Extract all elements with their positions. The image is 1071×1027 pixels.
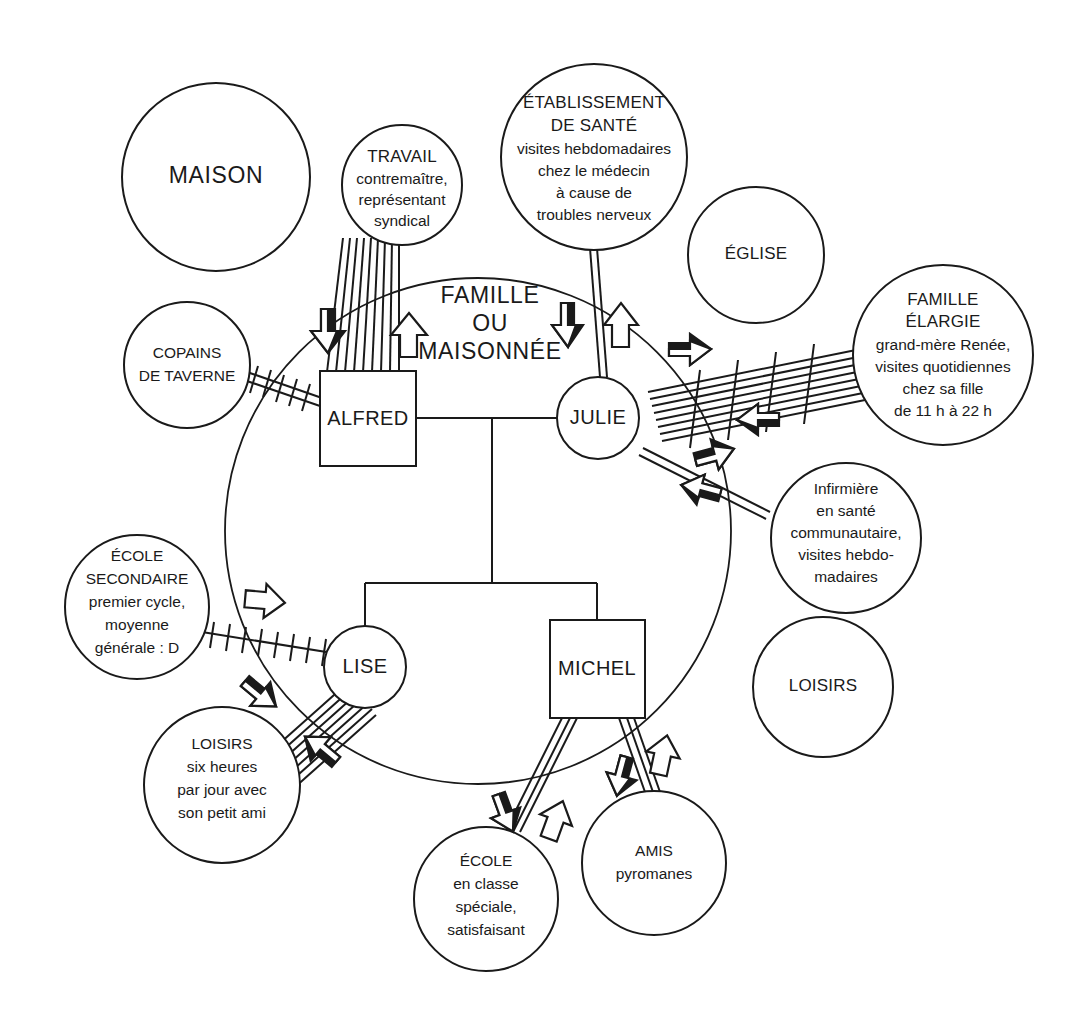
system-amis-pyromanes-circle[interactable] (582, 791, 726, 935)
system-ecole-secondaire[interactable]: ÉCOLE SECONDAIRE premier cycle, moyenne … (65, 535, 209, 679)
arrow-julie-to-sante (604, 303, 638, 347)
arrow-travail-to-alfred (311, 309, 345, 353)
system-travail-line-3: syndical (374, 212, 430, 229)
ecomap-canvas: MAISON TRAVAIL contremaître, représentan… (0, 0, 1071, 1027)
system-etablissement-sante[interactable]: ÉTABLISSEMENT DE SANTÉ visites hebdomada… (501, 64, 687, 250)
system-infirmiere-line-1: en santé (816, 502, 875, 519)
system-sante-line-1: DE SANTÉ (551, 116, 638, 135)
arrow-infirmiere-to-julie (691, 434, 738, 474)
system-ecole-michel[interactable]: ÉCOLE en classe spéciale, satisfaisant (414, 827, 558, 971)
system-infirmiere-line-3: visites hebdo- (798, 546, 894, 563)
member-julie-label: JULIE (570, 406, 626, 428)
system-infirmiere-line-0: Infirmière (814, 480, 879, 497)
system-ecole-sec-line-3: moyenne (105, 616, 169, 633)
connection-alfred-copains (244, 366, 322, 411)
member-lise[interactable]: LISE (324, 626, 406, 708)
ecomap-diagram: MAISON TRAVAIL contremaître, représentan… (0, 0, 1071, 1027)
system-loisirs-lise-line-1: six heures (187, 758, 258, 775)
arrow-famille-elargie-to-julie (669, 334, 711, 365)
system-maison-label: MAISON (169, 162, 263, 188)
system-famille-elargie-line-0: FAMILLE (907, 290, 978, 309)
system-loisirs-lise[interactable]: LOISIRS six heures par jour avec son pet… (144, 707, 300, 863)
system-ecole-sec-line-4: générale : D (95, 639, 179, 656)
household-title: FAMILLE OU MAISONNÉE (418, 282, 561, 364)
system-copains-taverne[interactable]: COPAINS DE TAVERNE (124, 302, 250, 428)
system-sante-line-0: ÉTABLISSEMENT (523, 93, 665, 112)
system-loisirs-lise-line-3: son petit ami (178, 804, 266, 821)
system-loisirs-vide-label: LOISIRS (789, 676, 857, 695)
system-sante-line-4: à cause de (556, 184, 632, 201)
member-alfred[interactable]: ALFRED (320, 371, 416, 466)
system-loisirs-lise-line-0: LOISIRS (191, 735, 252, 752)
connection-lise-ecole-secondaire (202, 622, 345, 666)
system-famille-elargie-line-4: chez sa fille (903, 380, 984, 397)
system-copains-line-0: COPAINS (153, 344, 222, 361)
system-ecole-michel-line-0: ÉCOLE (460, 852, 513, 869)
system-famille-elargie-line-5: de 11 h à 22 h (894, 402, 992, 419)
system-ecole-sec-line-1: SECONDAIRE (86, 570, 189, 587)
arrow-michel-to-ecole (533, 795, 579, 844)
system-famille-elargie-line-1: ÉLARGIE (905, 312, 980, 331)
household-title-line-0: FAMILLE (441, 282, 540, 308)
system-amis-line-0: AMIS (635, 842, 673, 859)
arrow-julie-to-infirmiere (677, 469, 724, 509)
system-maison[interactable]: MAISON (122, 83, 310, 271)
system-amis-pyromanes[interactable]: AMIS pyromanes (582, 791, 726, 935)
system-travail-line-1: contremaître, (356, 170, 447, 187)
system-infirmiere[interactable]: Infirmière en santé communautaire, visit… (771, 463, 921, 613)
member-alfred-label: ALFRED (327, 407, 408, 429)
system-famille-elargie-line-3: visites quotidiennes (875, 358, 1011, 375)
system-famille-elargie[interactable]: FAMILLE ÉLARGIE grand-mère Renée, visite… (853, 265, 1033, 445)
system-eglise[interactable]: ÉGLISE (688, 187, 824, 323)
system-infirmiere-line-4: madaires (814, 568, 878, 585)
household-title-line-2: MAISONNÉE (418, 338, 561, 364)
system-travail-line-0: TRAVAIL (367, 147, 437, 166)
system-sante-line-5: troubles nerveux (537, 206, 652, 223)
member-michel[interactable]: MICHEL (550, 620, 645, 718)
system-sante-line-3: chez le médecin (538, 162, 650, 179)
system-ecole-sec-line-0: ÉCOLE (111, 547, 164, 564)
system-travail-line-2: représentant (358, 191, 446, 208)
member-michel-label: MICHEL (558, 657, 636, 679)
system-loisirs-vide[interactable]: LOISIRS (753, 617, 893, 757)
system-ecole-michel-line-1: en classe (453, 875, 518, 892)
arrow-julie-to-famille-elargie (737, 404, 779, 435)
system-sante-line-2: visites hebdomadaires (517, 140, 671, 157)
system-infirmiere-line-2: communautaire, (790, 524, 901, 541)
member-lise-label: LISE (343, 655, 388, 677)
arrow-michel-to-amis (642, 732, 684, 778)
member-julie[interactable]: JULIE (557, 377, 639, 459)
system-ecole-michel-line-3: satisfaisant (447, 921, 525, 938)
system-copains-taverne-circle[interactable] (124, 302, 250, 428)
system-copains-line-1: DE TAVERNE (139, 367, 235, 384)
system-loisirs-lise-line-2: par jour avec (177, 781, 267, 798)
system-eglise-label: ÉGLISE (725, 244, 788, 263)
household-title-line-1: OU (472, 310, 508, 336)
system-ecole-michel-line-2: spéciale, (455, 898, 516, 915)
system-famille-elargie-line-2: grand-mère Renée, (876, 336, 1010, 353)
arrow-lise-to-ecole-secondaire (244, 582, 287, 619)
system-ecole-sec-line-2: premier cycle, (89, 593, 185, 610)
system-travail[interactable]: TRAVAIL contremaître, représentant syndi… (342, 125, 462, 245)
system-amis-line-1: pyromanes (616, 865, 693, 882)
